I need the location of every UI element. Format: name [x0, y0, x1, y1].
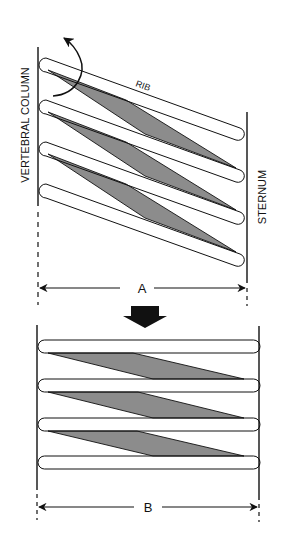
- rib-b2: [38, 379, 260, 392]
- distance-a-label: A: [138, 281, 147, 296]
- down-arrow-icon: [123, 306, 167, 328]
- vertebral-column-label: VERTEBRAL COLUMN: [19, 67, 31, 183]
- distance-b-label: B: [144, 500, 153, 515]
- muscle-b2: [48, 392, 244, 418]
- bottom-panel: B: [37, 325, 260, 522]
- muscle-b1: [48, 353, 244, 379]
- sternum-label: STERNUM: [256, 170, 268, 224]
- rib-cage-diagram: RIB VERTEBRAL COLUMN STERNUM A: [0, 0, 282, 541]
- rib-b1: [38, 340, 260, 353]
- rib-b4: [38, 456, 260, 469]
- intercostal-muscles-top: [48, 70, 236, 252]
- intercostal-muscles-bottom: [48, 353, 244, 456]
- muscle-b3: [48, 431, 244, 456]
- top-panel: RIB VERTEBRAL COLUMN STERNUM A: [19, 38, 268, 306]
- rib-b3: [38, 418, 260, 431]
